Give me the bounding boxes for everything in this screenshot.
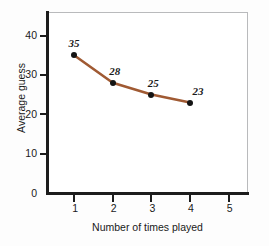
data-label-3: 25	[148, 77, 159, 89]
x-tick-2	[112, 195, 114, 202]
y-tick-30	[40, 74, 47, 76]
chart-figure: 40 30 20 10 0 1 2 3 4 5 35 28 25 23 Numb…	[0, 0, 269, 246]
x-tick-1	[73, 195, 75, 202]
y-axis-line	[46, 11, 49, 195]
x-axis-title: Number of times played	[47, 221, 248, 233]
y-axis-title: Average guess	[15, 33, 27, 163]
x-tick-label-2: 2	[105, 203, 123, 214]
y-tick-40	[40, 35, 47, 37]
x-tick-label-4: 4	[182, 203, 200, 214]
x-tick-label-1: 1	[66, 203, 84, 214]
data-label-4: 23	[193, 85, 204, 97]
data-point-2	[110, 80, 116, 86]
data-label-1: 35	[69, 37, 80, 49]
x-tick-5	[228, 195, 230, 202]
x-axis-line	[46, 192, 249, 195]
y-tick-label-0: 0	[15, 188, 37, 199]
y-tick-20	[40, 113, 47, 115]
data-point-4	[187, 100, 193, 106]
x-tick-3	[150, 195, 152, 202]
x-tick-4	[189, 195, 191, 202]
data-label-2: 28	[109, 65, 120, 77]
y-tick-10	[40, 153, 47, 155]
x-tick-label-3: 3	[143, 203, 161, 214]
x-tick-label-5: 5	[221, 203, 239, 214]
data-point-3	[148, 92, 154, 98]
